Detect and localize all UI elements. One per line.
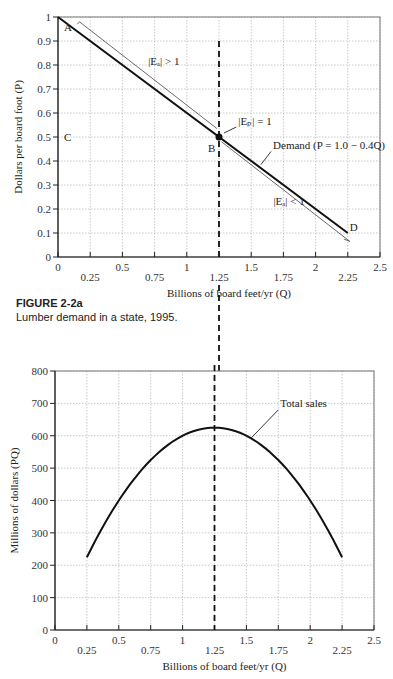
x-tick-label: 2.25 — [338, 271, 358, 283]
point-label-C: C — [64, 131, 71, 143]
y-tick-label: 200 — [32, 559, 49, 571]
point-B-marker — [216, 134, 223, 141]
point-label-D: D — [350, 221, 358, 233]
x-tick-label: 0.25 — [77, 644, 97, 656]
point-label-A: A — [64, 21, 72, 33]
y-tick-label: 0.5 — [37, 131, 51, 143]
y-tick-label: 0.3 — [37, 179, 51, 191]
figure-title: FIGURE 2-2a — [16, 297, 83, 309]
x-tick-label: 1.75 — [269, 644, 289, 656]
y-axis-label: Dollars per board foot (P) — [12, 80, 25, 194]
x-tick-label: 1.25 — [209, 271, 229, 283]
x-tick-label: 0.5 — [112, 634, 126, 646]
elastic-annotation: |Eₐ| > 1 — [148, 55, 179, 67]
total-sales-arrow — [250, 410, 278, 439]
y-tick-label: 400 — [32, 495, 49, 507]
x-tick-label: 0.25 — [81, 271, 101, 283]
elastic-bracket — [77, 22, 217, 129]
y-tick-label: 600 — [32, 430, 49, 442]
chart-canvas: 00.10.20.30.40.50.60.70.80.9100.511.522.… — [0, 0, 393, 679]
total-sales-annotation: Total sales — [280, 397, 327, 409]
y-tick-label: 0.6 — [37, 107, 51, 119]
x-tick-label: 2 — [313, 261, 319, 273]
y-tick-label: 500 — [32, 462, 49, 474]
y-tick-label: 800 — [32, 365, 49, 377]
x-tick-label: 0 — [55, 261, 61, 273]
y-tick-label: 0 — [46, 251, 52, 263]
demand-arrow — [261, 151, 271, 164]
y-tick-label: 0.9 — [37, 35, 51, 47]
inelastic-annotation: |Eₐ| < 1 — [273, 195, 304, 207]
y-tick-label: 1 — [46, 11, 52, 23]
y-tick-label: 300 — [32, 527, 49, 539]
x-tick-label: 0.75 — [141, 644, 161, 656]
x-tick-label: 1.5 — [240, 634, 254, 646]
y-tick-label: 0.4 — [37, 155, 51, 167]
x-tick-label: 0.5 — [116, 261, 130, 273]
y-tick-label: 700 — [32, 397, 49, 409]
inelastic-bracket — [222, 142, 350, 242]
x-tick-label: 0 — [52, 634, 58, 646]
x-tick-label: 2.5 — [373, 261, 387, 273]
y-tick-label: 0.7 — [37, 83, 51, 95]
x-tick-label: 1.25 — [205, 644, 225, 656]
demand-annotation: Demand (P = 1.0 − 0.4Q) — [273, 139, 385, 152]
figure-caption: Lumber demand in a state, 1995. — [16, 311, 177, 323]
x-tick-label: 1.75 — [274, 271, 294, 283]
y-axis-label: Millions of dollars (PQ) — [8, 447, 21, 553]
y-tick-label: 0.2 — [37, 203, 51, 215]
x-axis-label: Billions of board feet/yr (Q) — [167, 287, 291, 300]
y-tick-label: 0.1 — [37, 227, 51, 239]
x-tick-label: 1 — [184, 261, 190, 273]
y-tick-label: 0.8 — [37, 59, 51, 71]
unit-elastic-annotation: |Eₚ| = 1 — [238, 115, 271, 127]
x-tick-label: 1.5 — [244, 261, 258, 273]
x-tick-label: 0.75 — [145, 271, 165, 283]
x-tick-label: 2 — [307, 634, 313, 646]
x-tick-label: 2.5 — [367, 634, 381, 646]
x-tick-label: 1 — [180, 634, 186, 646]
y-tick-label: 0 — [43, 624, 49, 636]
unit-elastic-arrow — [224, 127, 236, 133]
x-tick-label: 2.25 — [332, 644, 352, 656]
x-axis-label: Billions of board feet/yr (Q) — [162, 660, 286, 673]
y-tick-label: 100 — [32, 592, 49, 604]
point-label-B: B — [208, 142, 215, 154]
